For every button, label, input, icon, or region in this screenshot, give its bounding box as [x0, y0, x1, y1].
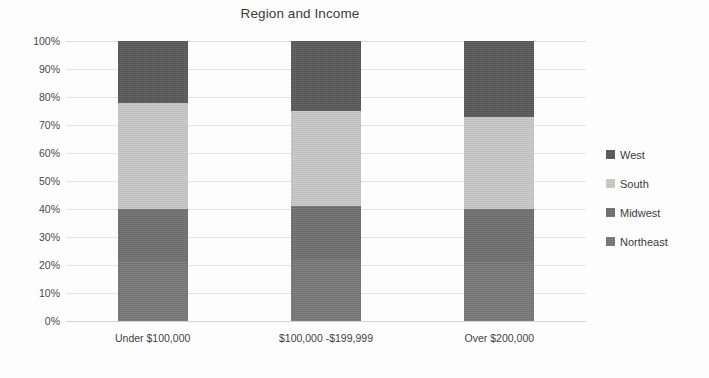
bar-segment-south[interactable] — [118, 103, 188, 209]
bar-segment-west[interactable] — [464, 41, 534, 117]
bar-segment-west[interactable] — [118, 41, 188, 103]
gridline — [66, 321, 586, 322]
y-axis-tick-label: 60% — [8, 147, 60, 159]
y-axis-tick-label: 20% — [8, 259, 60, 271]
bar-segment-west[interactable] — [291, 41, 361, 111]
x-axis-category-label: Over $200,000 — [419, 332, 579, 344]
y-axis-tick-label: 0% — [8, 315, 60, 327]
bar-group[interactable] — [291, 41, 361, 321]
bar-group[interactable] — [464, 41, 534, 321]
y-axis-tick-label: 10% — [8, 287, 60, 299]
bar-stack — [118, 41, 188, 321]
x-axis-category-label: $100,000 -$199,999 — [246, 332, 406, 344]
bar-segment-northeast[interactable] — [291, 259, 361, 321]
y-axis-tick-label: 30% — [8, 231, 60, 243]
bar-segment-midwest[interactable] — [291, 206, 361, 259]
legend-swatch-icon — [606, 208, 615, 217]
y-axis-tick-label: 40% — [8, 203, 60, 215]
legend-item-label: West — [620, 149, 645, 161]
legend-swatch-icon — [606, 150, 615, 159]
chart-legend: WestSouthMidwestNortheast — [606, 140, 706, 256]
legend-item-northeast[interactable]: Northeast — [606, 227, 706, 256]
legend-item-south[interactable]: South — [606, 169, 706, 198]
y-axis: 0%10%20%30%40%50%60%70%80%90%100% — [8, 41, 60, 321]
bar-segment-northeast[interactable] — [118, 262, 188, 321]
chart-container: Region and Income 0%10%20%30%40%50%60%70… — [0, 0, 709, 378]
y-axis-tick-label: 90% — [8, 63, 60, 75]
bar-segment-south[interactable] — [464, 117, 534, 209]
legend-item-midwest[interactable]: Midwest — [606, 198, 706, 227]
plot-area — [66, 41, 586, 321]
bar-stack — [464, 41, 534, 321]
y-axis-tick-label: 70% — [8, 119, 60, 131]
bar-segment-south[interactable] — [291, 111, 361, 206]
x-axis-category-label: Under $100,000 — [73, 332, 233, 344]
legend-item-label: Midwest — [620, 207, 660, 219]
bar-segment-midwest[interactable] — [464, 209, 534, 262]
chart-title: Region and Income — [0, 6, 600, 21]
legend-swatch-icon — [606, 237, 615, 246]
bar-stack — [291, 41, 361, 321]
legend-swatch-icon — [606, 179, 615, 188]
y-axis-tick-label: 50% — [8, 175, 60, 187]
bar-group[interactable] — [118, 41, 188, 321]
legend-item-label: South — [620, 178, 649, 190]
bar-segment-midwest[interactable] — [118, 209, 188, 262]
y-axis-tick-label: 100% — [8, 35, 60, 47]
bar-segment-northeast[interactable] — [464, 262, 534, 321]
legend-item-label: Northeast — [620, 236, 668, 248]
y-axis-tick-label: 80% — [8, 91, 60, 103]
legend-item-west[interactable]: West — [606, 140, 706, 169]
